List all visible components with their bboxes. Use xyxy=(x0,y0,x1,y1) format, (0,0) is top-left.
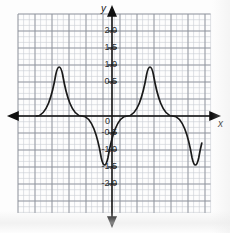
y-tick-label-neg2.0: -2.0 xyxy=(93,178,117,189)
y-axis-arrow-bottom xyxy=(108,217,116,226)
y-tick-label-0.5: 0.5 xyxy=(95,76,117,87)
y-tick-label-1.5: 1.5 xyxy=(95,42,117,53)
y-tick-label-neg0.5: -0.5 xyxy=(93,127,117,138)
y-tick-label-0: 0 xyxy=(99,116,110,127)
y-tick-label-1.0: 1.0 xyxy=(95,59,117,70)
y-tick-label-neg1.0: -1.0 xyxy=(93,144,117,155)
y-tick-label-neg1.5: -1.5 xyxy=(93,161,117,172)
y-axis-arrow-top xyxy=(108,7,116,16)
y-axis-label: y xyxy=(101,3,106,14)
graph-figure: 2.0 1.5 1.0 0.5 0 -0.5 -1.0 -1.5 -2.0 y … xyxy=(0,0,230,233)
x-axis-arrow-left xyxy=(9,112,18,120)
x-axis-label: x xyxy=(218,118,223,129)
y-tick-label-2.0: 2.0 xyxy=(95,25,117,36)
